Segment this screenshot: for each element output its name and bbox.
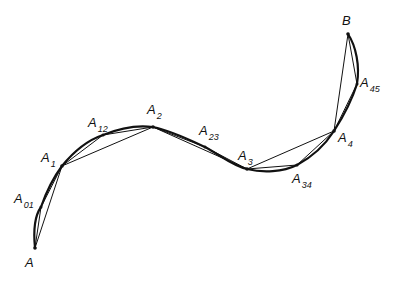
label-base: A [360,75,369,90]
label-subscript: 3 [248,157,253,167]
vertex-dots [33,32,358,250]
label-a01: A01 [14,192,34,210]
label-base: A [147,102,156,117]
label-base: A [14,191,23,206]
label-subscript: 45 [370,84,380,94]
label-subscript: 2 [157,111,162,121]
label-subscript: 4 [348,139,353,149]
label-a4: A4 [338,131,353,149]
label-base: A [292,171,301,186]
label-base: A [88,115,97,130]
label-subscript: 1 [51,159,56,169]
label-a34: A34 [292,172,312,190]
label-subscript: 01 [24,200,34,210]
label-subscript: 34 [302,180,312,190]
label-base: A [238,148,247,163]
label-base: A [25,255,34,270]
label-b: B [342,14,351,27]
smooth-curve [34,34,358,248]
label-a3: A3 [238,149,253,167]
label-a: A [25,256,34,269]
label-base: A [338,130,347,145]
fine-chords [35,34,357,248]
label-a12: A12 [88,116,108,134]
label-subscript: 12 [98,124,108,134]
label-base: A [41,150,50,165]
label-base: A [199,123,208,138]
label-base: B [342,13,351,28]
label-subscript: 23 [209,132,219,142]
label-a2: A2 [147,103,162,121]
label-a45: A45 [360,76,380,94]
label-a1: A1 [41,151,56,169]
label-a23: A23 [199,124,219,142]
